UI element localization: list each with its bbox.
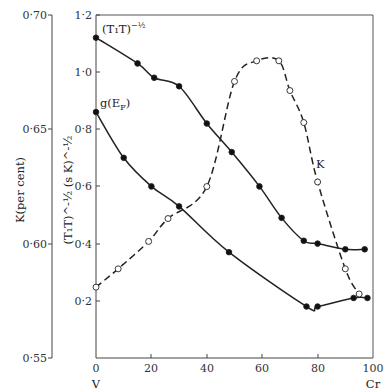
series-line [96,38,365,250]
data-point [257,184,263,190]
data-point [315,241,321,247]
x-tick: 40 [200,362,214,375]
left-axis-label: K(per cent) [13,157,27,223]
left-tick: 0·55 [23,352,48,365]
data-point [115,266,121,272]
data-point [149,184,155,190]
data-point [93,35,99,41]
data-point [229,149,235,155]
data-point [315,179,321,185]
x-tick: 0 [93,362,100,375]
data-point [146,238,152,244]
data-point [232,78,238,84]
data-point [204,184,210,190]
left-axis: 0·70 0·65 0·60 0·55 K(per cent) [13,9,52,365]
plot-area [93,35,370,311]
chart: 0·70 0·65 0·60 0·55 K(per cent) 1·2 1·0 … [0,0,387,392]
inner-tick: 0·6 [75,180,93,193]
data-point [301,120,307,126]
data-point [121,155,127,161]
k-series-label: K [316,157,325,171]
data-point [93,284,99,290]
data-point [356,291,362,297]
data-point [342,266,348,272]
x-right-end-label: Cr [366,377,381,391]
data-point [93,109,99,115]
x-tick: 60 [255,362,269,375]
data-point [135,61,141,67]
left-tick: 0·65 [23,123,48,136]
g-series-label: g(EF) [100,96,130,112]
data-point [351,295,357,301]
left-tick: 0·60 [23,238,48,251]
inner-tick: 0·2 [75,295,93,308]
x-tick: 80 [311,362,325,375]
x-tick: 100 [363,362,384,375]
data-point [287,88,293,94]
series-line [96,58,359,294]
data-point [226,249,232,255]
inner-tick: 0·4 [75,238,93,251]
data-point [343,247,349,253]
data-point [362,247,368,253]
data-point [279,215,285,221]
data-point [304,304,310,310]
inner-axis: 1·2 1·0 0·8 0·6 0·4 0·2 (T₁T)^-½ (s K)^-… [61,9,373,358]
data-point [301,238,307,244]
t1t-series-label: (T₁T)−½ [102,21,146,36]
data-point [254,58,260,64]
data-point [204,121,210,127]
data-point [151,75,157,81]
x-axis: 0 20 40 60 80 100 V Cr [91,354,384,391]
inner-tick: 1·2 [75,9,93,22]
inner-tick: 1·0 [75,66,93,79]
inner-axis-label: (T₁T)^-½ (s K)^-½ [61,135,75,244]
data-point [165,216,171,222]
inner-tick: 0·8 [75,123,93,136]
x-tick: 20 [144,362,158,375]
data-point [315,304,321,310]
data-point [365,295,371,301]
left-tick: 0·70 [23,9,48,22]
data-point [276,58,282,64]
data-point [176,204,182,210]
x-left-end-label: V [91,377,101,391]
data-point [176,84,182,90]
